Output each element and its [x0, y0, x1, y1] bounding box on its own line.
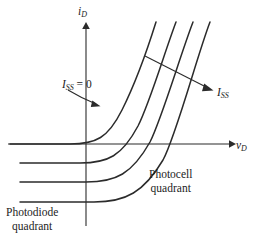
photocell-quadrant-line2: quadrant: [149, 182, 192, 196]
photodiode-quadrant-line1: Photodiode: [6, 206, 58, 220]
y-axis-label: iD: [78, 5, 87, 20]
photocell-quadrant-line1: Photocell: [149, 168, 192, 182]
x-axis-label-subscript: D: [241, 144, 247, 153]
y-axis-arrowhead: [82, 22, 90, 29]
iss-label: ISS: [217, 86, 229, 101]
photodiode-quadrant-line2: quadrant: [6, 220, 58, 234]
iss-zero-pointer-arrowhead: [91, 101, 101, 107]
curve-iss-1: [20, 22, 176, 163]
x-axis-label: vD: [236, 139, 247, 154]
y-axis-label-subscript: D: [81, 10, 87, 19]
iss-subscript: SS: [221, 91, 229, 100]
photodiode-quadrant-label: Photodiode quadrant: [6, 206, 58, 233]
photocell-quadrant-label: Photocell quadrant: [149, 168, 192, 195]
photodiode-characteristic-figure: iD vD ISS = 0 ISS Photocell quadrant Pho…: [0, 0, 261, 243]
iss-zero-equals: = 0: [74, 78, 92, 90]
iss-zero-label: ISS = 0: [62, 78, 92, 93]
y-axis-group: [82, 22, 90, 226]
x-axis-arrowhead: [229, 140, 236, 148]
iss-increasing-pointer-arrowhead: [202, 83, 214, 91]
iss-zero-subscript: SS: [66, 83, 74, 92]
